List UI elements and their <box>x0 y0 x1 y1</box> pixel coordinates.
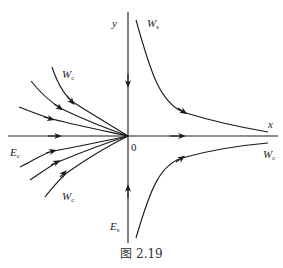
trajectory-fan-lower-left <box>20 136 128 197</box>
es-bottom-label: Es <box>109 220 120 234</box>
phase-portrait-figure: y x 0 Ws Wc Wc Wc Ec Es 图 2.19 <box>0 0 283 268</box>
wc-upper-left-label: Wc <box>62 68 74 82</box>
y-axis-label: y <box>111 17 117 29</box>
trajectory-lower-right <box>136 143 268 238</box>
ec-left-label: Ec <box>9 146 20 160</box>
ws-top-label: Ws <box>147 17 159 31</box>
origin-label: 0 <box>131 141 137 153</box>
wc-right-label: Wc <box>263 148 275 162</box>
wc-lower-left-label: Wc <box>62 190 74 204</box>
trajectory-upper-right <box>136 20 268 132</box>
figure-caption: 图 2.19 <box>0 244 283 261</box>
x-axis-label: x <box>267 118 273 130</box>
